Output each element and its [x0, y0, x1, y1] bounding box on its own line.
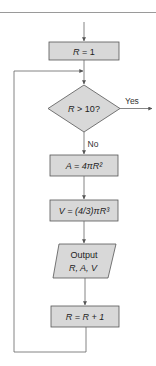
- svg-text:R > 10?: R > 10?: [68, 104, 100, 114]
- svg-text:R = 1: R = 1: [73, 47, 95, 57]
- volume-box: V = (4/3)πR³: [50, 200, 118, 221]
- increment-text: R = R + 1: [66, 312, 105, 322]
- volume-text: V = (4/3)πR³: [59, 206, 110, 216]
- output-line2: R, A, V: [69, 263, 98, 273]
- no-label: No: [88, 139, 99, 149]
- yes-label: Yes: [125, 96, 139, 106]
- output-line1: Output: [70, 250, 98, 260]
- init-box: R = 1: [49, 42, 119, 60]
- area-text: A = 4πR²: [65, 161, 103, 171]
- output-parallelogram: Output R, A, V: [53, 244, 116, 278]
- increment-box: R = R + 1: [51, 306, 119, 327]
- decision-diamond: R > 10?: [48, 85, 120, 132]
- area-box: A = 4πR²: [50, 155, 118, 176]
- decision-rest: > 10?: [75, 104, 100, 114]
- init-rest: = 1: [80, 47, 95, 57]
- flowchart: R = 1 R > 10? Yes No A = 4πR² V = (4/3)π…: [0, 0, 156, 366]
